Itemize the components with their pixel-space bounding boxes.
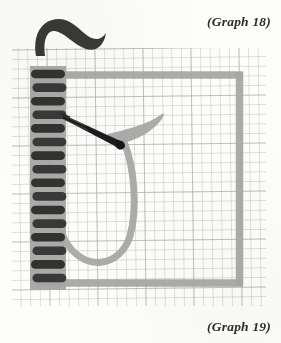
stitch-mark (31, 124, 65, 133)
stitch-mark (32, 165, 66, 174)
stitch-mark (31, 179, 65, 188)
stitch-mark (31, 206, 65, 215)
stitch-mark (31, 151, 65, 160)
graph-figure: (Graph 18) (Graph 19) (0, 0, 281, 343)
stitch-mark (32, 83, 66, 92)
stitch-mark (31, 260, 65, 269)
stitch-mark (31, 233, 65, 242)
stitch-mark (31, 97, 65, 106)
stitch-mark (32, 192, 66, 201)
graph-label-bottom: (Graph 19) (207, 319, 271, 335)
stitch-diagram-canvas (0, 0, 281, 343)
stitch-mark (32, 138, 66, 147)
graph-label-top: (Graph 18) (207, 14, 271, 30)
stitch-mark (31, 70, 65, 79)
stitch-mark (32, 219, 66, 228)
stitch-mark (32, 247, 66, 256)
stitch-mark (32, 274, 66, 283)
